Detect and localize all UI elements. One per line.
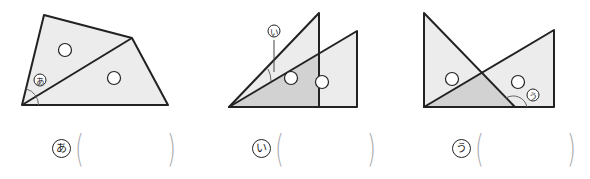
right-paren: ) — [567, 126, 576, 170]
angle-label-u: う — [529, 91, 538, 101]
figure-i: い — [229, 13, 357, 107]
right-angle-marker-circle — [285, 72, 298, 85]
left-paren: ( — [275, 126, 284, 170]
figure-u: う — [424, 13, 554, 107]
right-angle-marker-circle — [446, 73, 459, 86]
answer-u-field[interactable] — [486, 134, 566, 164]
answer-i-field[interactable] — [286, 134, 366, 164]
right-angle-marker-circle — [108, 72, 121, 85]
answer-a-label: あ — [52, 139, 71, 158]
answer-u: う ( ) — [450, 130, 580, 170]
answer-a: あ ( ) — [50, 130, 180, 170]
answer-i-label: い — [252, 139, 271, 158]
right-angle-marker-circle — [316, 76, 329, 89]
right-angle-marker-circle — [59, 44, 72, 57]
figures-canvas: あ い う — [0, 0, 590, 125]
right-paren: ) — [167, 126, 176, 170]
left-paren: ( — [475, 126, 484, 170]
right-angle-marker-circle — [512, 76, 525, 89]
answer-i: い ( ) — [250, 130, 380, 170]
angle-label-i: い — [270, 27, 279, 37]
answer-u-label: う — [452, 139, 471, 158]
angle-label-a: あ — [36, 76, 45, 86]
figure-a: あ — [22, 15, 168, 105]
right-paren: ) — [367, 126, 376, 170]
answer-a-field[interactable] — [86, 134, 166, 164]
left-paren: ( — [75, 126, 84, 170]
